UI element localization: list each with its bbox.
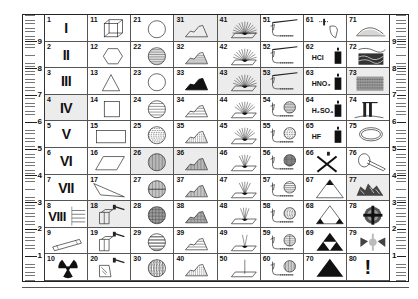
cylinder-rod-icon: [45, 228, 87, 254]
cell-number: 17: [90, 176, 98, 183]
cell-number: 67: [306, 176, 314, 183]
cell-number: 19: [90, 229, 98, 236]
cell-number: 38: [176, 202, 184, 209]
symbol-cell-20: 20: [88, 254, 131, 281]
symbol-cell-18: 18: [88, 201, 131, 228]
symbol-cell-9: 9: [45, 228, 88, 255]
exclamation-label: !: [347, 256, 389, 279]
cell-number: 50: [220, 255, 228, 262]
ruler-label: 1: [391, 252, 397, 260]
ruler-label: 6: [391, 118, 397, 126]
cell-number: 32: [176, 43, 184, 50]
symbol-cell-26: 26: [131, 148, 174, 175]
cell-number: 15: [90, 122, 98, 129]
cell-number: 44: [220, 96, 228, 103]
symbol-cell-69: 69: [304, 228, 347, 255]
symbol-cell-72: 72: [347, 42, 390, 69]
ruler-label: 4: [37, 172, 43, 180]
cell-number: 79: [349, 229, 357, 236]
roman-numeral-label: VIII: [45, 209, 69, 224]
symbol-cell-19: 19: [88, 228, 131, 255]
symbol-cell-54: 54: [261, 95, 304, 122]
roman-numeral-label: III: [45, 73, 87, 89]
symbol-cell-74: 74: [347, 95, 390, 122]
ruler-label: 7: [37, 91, 43, 99]
symbol-cell-67: 67: [304, 175, 347, 202]
symbol-cell-37: 37: [174, 175, 217, 202]
cell-number: 28: [133, 202, 141, 209]
cell-number: 48: [220, 202, 228, 209]
symbol-cell-10: 10: [45, 254, 88, 281]
cell-number: 43: [220, 69, 228, 76]
ruler-label: 9: [391, 38, 397, 46]
symbol-cell-77: 77: [347, 175, 390, 202]
symbol-cell-70: 70: [304, 254, 347, 281]
ruler-label: 2: [37, 225, 43, 233]
symbol-cell-5: 5V: [45, 121, 88, 148]
ruler-label: 7: [391, 91, 397, 99]
symbol-cell-11: 11: [88, 15, 131, 42]
ruler-label: 3: [391, 199, 397, 207]
cell-number: 31: [176, 16, 184, 23]
symbol-cell-79: 79: [347, 228, 390, 255]
cell-number: 11: [90, 16, 97, 23]
symbol-cell-78: 78: [347, 201, 390, 228]
symbol-cell-73: 73: [347, 68, 390, 95]
symbol-cell-13: 13: [88, 68, 131, 95]
cell-number: 54: [263, 96, 271, 103]
ruler-label: 4: [391, 172, 397, 180]
symbol-cell-51: 51: [261, 15, 304, 42]
roman-numeral-label: V: [45, 126, 87, 142]
cell-number: 58: [263, 202, 271, 209]
symbol-cell-40: 40: [174, 254, 217, 281]
cell-number: 37: [176, 176, 184, 183]
symbol-cell-56: 56: [261, 148, 304, 175]
cell-number: 30: [133, 255, 141, 262]
cell-number: 70: [306, 255, 314, 262]
symbol-cell-50: 50: [218, 254, 261, 281]
symbol-cell-47: 47: [218, 175, 261, 202]
symbol-cell-32: 32: [174, 42, 217, 69]
symbol-cell-4: 4IV: [45, 95, 88, 122]
cell-number: 78: [349, 202, 357, 209]
symbol-cell-38: 38: [174, 201, 217, 228]
chemical-formula-label: HCl: [312, 54, 324, 61]
symbol-cell-8: 8VIII: [45, 201, 88, 228]
cell-number: 13: [90, 69, 98, 76]
roman-numeral-label: IV: [45, 100, 87, 116]
symbol-cell-44: 44: [218, 95, 261, 122]
cell-number: 71: [349, 16, 357, 23]
symbol-cell-49: 49: [218, 228, 261, 255]
symbol-cell-65: 65HF: [304, 121, 347, 148]
ruler-label: 6: [37, 118, 43, 126]
cell-number: 8: [47, 202, 51, 209]
cell-number: 12: [90, 43, 98, 50]
cell-number: 26: [133, 149, 141, 156]
symbol-cell-53: 53: [261, 68, 304, 95]
symbol-cell-15: 15: [88, 121, 131, 148]
symbol-cell-14: 14: [88, 95, 131, 122]
symbol-cell-33: 33: [174, 68, 217, 95]
symbol-cell-52: 52: [261, 42, 304, 69]
cell-number: 23: [133, 69, 141, 76]
symbol-cell-76: 76: [347, 148, 390, 175]
symbol-cell-2: 2II: [45, 42, 88, 69]
cell-number: 59: [263, 229, 271, 236]
symbol-cell-21: 21: [131, 15, 174, 42]
cell-number: 22: [133, 43, 141, 50]
ruler-label: 8: [37, 65, 43, 73]
cell-number: 49: [220, 229, 228, 236]
symbol-cell-55: 55: [261, 121, 304, 148]
ruler-label: 3: [37, 199, 43, 207]
symbol-cell-68: 68: [304, 201, 347, 228]
symbol-cell-31: 31: [174, 15, 217, 42]
symbol-cell-58: 58: [261, 201, 304, 228]
right-ruler: 987654321: [389, 15, 408, 281]
cell-number: 77: [349, 176, 357, 183]
cell-number: 33: [176, 69, 184, 76]
cell-number: 40: [176, 255, 184, 262]
cell-number: 25: [133, 122, 141, 129]
cell-number: 36: [176, 149, 184, 156]
symbol-cell-41: 41: [218, 15, 261, 42]
symbol-grid: 1I112131415161712II122232425262HCl723III…: [45, 15, 390, 281]
